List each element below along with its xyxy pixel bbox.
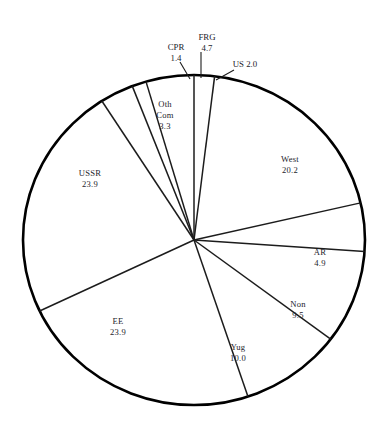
pie-label-ar: AR4.9 xyxy=(314,247,326,268)
pie-label-cpr: CPR1.4 xyxy=(168,42,185,63)
pie-label-yug: Yug10.0 xyxy=(230,342,246,363)
pie-chart-canvas: US 2.0West20.2AR4.9Non9.5Yug10.0EE23.9US… xyxy=(0,0,385,431)
pie-label-frg: FRG4.7 xyxy=(198,32,216,53)
pie-label-ussr: USSR23.9 xyxy=(79,168,101,189)
pie-chart: US 2.0West20.2AR4.9Non9.5Yug10.0EE23.9US… xyxy=(0,0,385,431)
pie-label-west: West20.2 xyxy=(281,154,299,175)
pie-label-us: US 2.0 xyxy=(233,59,258,69)
